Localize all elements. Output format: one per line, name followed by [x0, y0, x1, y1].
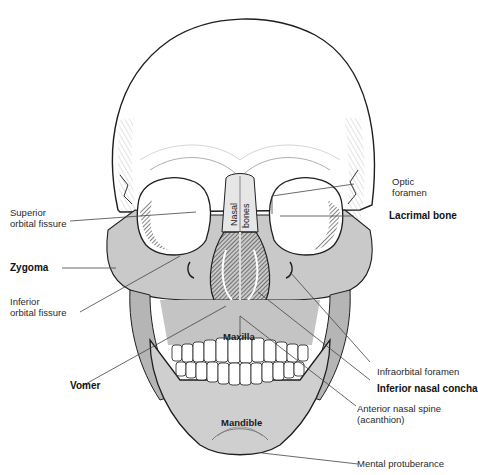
label-maxilla: Maxilla — [223, 331, 255, 342]
label-nasal: Nasal — [229, 203, 239, 226]
label-line: Optic — [392, 176, 427, 187]
label-vomer: Vomer — [70, 380, 100, 391]
label-line: Superior — [10, 207, 67, 218]
label-line: foramen — [392, 187, 427, 198]
label-anterior-nasal-spine: Anterior nasal spine (acanthion) — [357, 403, 441, 425]
label-bones: bones — [241, 203, 251, 228]
label-optic-foramen: Optic foramen — [392, 176, 427, 198]
label-inferior-nasal-concha: Inferior nasal concha — [377, 383, 478, 394]
label-lacrimal-bone: Lacrimal bone — [389, 210, 457, 221]
label-line: Anterior nasal spine — [357, 403, 441, 414]
label-zygoma: Zygoma — [10, 262, 48, 273]
label-line: Inferior — [10, 296, 67, 307]
label-mandible: Mandible — [221, 417, 262, 428]
label-line: orbital fissure — [10, 218, 67, 229]
label-line: (acanthion) — [357, 414, 441, 425]
label-mental-protuberance: Mental protuberance — [357, 458, 444, 469]
label-inferior-orbital-fissure: Inferior orbital fissure — [10, 296, 67, 318]
label-superior-orbital-fissure: Superior orbital fissure — [10, 207, 67, 229]
label-infraorbital-foramen: Infraorbital foramen — [377, 366, 459, 377]
label-line: orbital fissure — [10, 307, 67, 318]
